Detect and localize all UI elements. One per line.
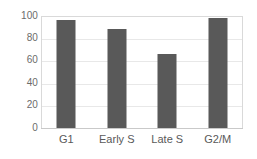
x-tick-label-late-s: Late S — [142, 133, 193, 146]
bar-early-s[interactable] — [107, 29, 126, 128]
y-tick-label: 0 — [2, 123, 38, 133]
bar-late-s[interactable] — [158, 54, 177, 128]
bar-slot-3 — [193, 16, 244, 128]
bar-slot-0 — [41, 16, 92, 128]
bar-chart: 100 80 60 40 20 0 G1 Early S Late S G2/ — [0, 0, 257, 159]
x-axis: G1 Early S Late S G2/M — [41, 133, 243, 153]
x-tick-label-g2-m: G2/M — [193, 133, 244, 146]
y-tick-label: 60 — [2, 55, 38, 65]
x-axis-line — [41, 128, 243, 129]
y-tick-label: 20 — [2, 100, 38, 110]
bar-slot-2 — [142, 16, 193, 128]
bars-layer — [41, 16, 243, 128]
bar-g1[interactable] — [57, 20, 76, 128]
x-tick-label-early-s: Early S — [92, 133, 143, 146]
y-tick-label: 80 — [2, 33, 38, 43]
bar-g2-m[interactable] — [208, 18, 227, 128]
y-axis: 100 80 60 40 20 0 — [0, 0, 38, 159]
y-tick-label: 100 — [2, 11, 38, 21]
bar-slot-1 — [92, 16, 143, 128]
x-tick-label-g1: G1 — [41, 133, 92, 146]
y-tick-label: 40 — [2, 78, 38, 88]
